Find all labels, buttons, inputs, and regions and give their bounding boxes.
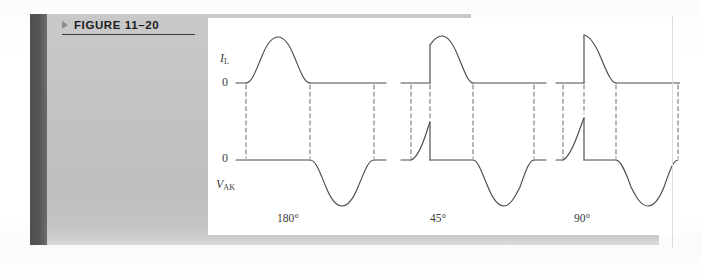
- angle-label-panel-3: 90°: [552, 212, 612, 224]
- panel-180-il-halfsine: [246, 37, 310, 83]
- figure-number-label: FIGURE 11–20: [74, 19, 159, 31]
- panel-180-guides: [246, 85, 374, 158]
- current-axis-label: IL: [220, 52, 229, 66]
- angle-label-panel-2: 45°: [408, 212, 468, 224]
- waveform-svg: [208, 18, 680, 235]
- panel-90-vak-halfsine: [616, 160, 678, 206]
- panel-90-vak-rise: [563, 118, 584, 160]
- panel-180-vak-halfsine: [310, 160, 374, 206]
- figure-page: FIGURE 11–20: [0, 0, 702, 277]
- panel-90-il-sine: [584, 35, 616, 83]
- panel-90-guides: [563, 85, 678, 158]
- page-edge-rule: [672, 16, 673, 248]
- panel-45-vak-halfsine: [473, 160, 534, 206]
- angle-label-panel-1: 180°: [258, 212, 318, 224]
- panel-90-traces: [556, 35, 680, 206]
- panel-180-traces: [236, 37, 386, 206]
- voltage-zero-label: 0: [222, 152, 228, 164]
- triangle-marker-icon: [62, 21, 68, 29]
- caption-divider: [62, 34, 195, 35]
- waveform-layer: [208, 18, 680, 235]
- current-zero-label: 0: [222, 76, 228, 88]
- page-spine: [30, 14, 47, 245]
- voltage-axis-label: VAK: [216, 178, 235, 192]
- panel-45-vak-rise: [411, 122, 430, 160]
- panel-45-il-sine: [430, 36, 473, 83]
